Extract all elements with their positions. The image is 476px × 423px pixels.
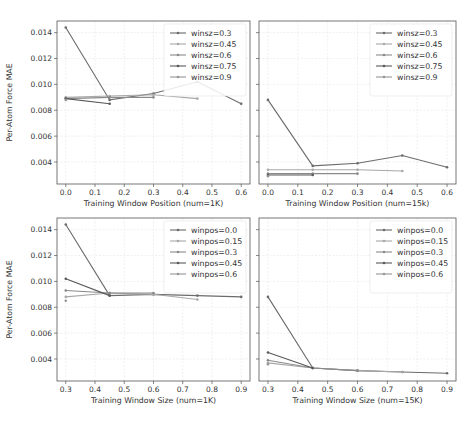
x-tick-label: 0.3	[60, 385, 72, 394]
data-point	[152, 96, 155, 99]
x-tick-label: 0.7	[381, 385, 393, 394]
x-tick-label: 0.0	[262, 188, 274, 197]
legend-label: winpos=0.45	[191, 259, 242, 268]
data-point	[267, 99, 270, 102]
y-tick-label: 0.012	[31, 54, 53, 63]
data-point	[64, 278, 67, 281]
series-line	[64, 99, 67, 102]
x-tick-label: 0.3	[352, 188, 364, 197]
legend-label: winsz=0.45	[191, 40, 237, 49]
data-point	[64, 289, 67, 292]
legend-label: winsz=0.9	[191, 73, 232, 82]
series-line	[267, 359, 359, 372]
x-tick-label: 0.5	[206, 188, 218, 197]
x-tick-label: 0.6	[441, 188, 453, 197]
data-point	[240, 102, 243, 105]
data-point	[401, 371, 404, 374]
data-point	[108, 102, 111, 105]
data-point	[311, 367, 314, 370]
legend-label: winpos=0.3	[191, 248, 237, 257]
data-point	[108, 96, 111, 99]
figure: 0.00.10.20.30.40.50.60.0040.0060.0080.01…	[0, 0, 476, 423]
y-tick-label: 0.006	[31, 329, 53, 338]
legend-label: winpos=0.15	[397, 237, 448, 246]
data-point	[64, 296, 67, 299]
x-tick-label: 0.1	[292, 188, 304, 197]
series-line	[267, 168, 404, 172]
data-point	[64, 299, 67, 302]
legend-label: winpos=0.15	[191, 237, 242, 246]
data-point	[108, 99, 111, 102]
data-point	[196, 294, 199, 297]
x-tick-label: 0.5	[322, 385, 334, 394]
y-tick-label: 0.008	[31, 303, 53, 312]
data-point	[267, 363, 270, 366]
chart-top-right: 0.00.10.20.30.40.50.6Training Window Pos…	[256, 21, 456, 208]
data-point	[356, 162, 359, 165]
data-point	[311, 174, 314, 177]
legend-label: winpos=0.0	[191, 226, 237, 235]
data-point	[64, 223, 67, 226]
data-point	[267, 168, 270, 171]
data-point	[196, 298, 199, 301]
y-axis-label: Per-Atom Force MAE	[5, 63, 14, 141]
data-point	[64, 26, 67, 29]
legend-label: winsz=0.3	[397, 29, 438, 38]
x-tick-label: 0.9	[235, 385, 247, 394]
data-point	[446, 166, 449, 169]
x-tick-label: 0.4	[89, 385, 101, 394]
data-point	[446, 372, 449, 375]
x-tick-label: 0.4	[292, 385, 304, 394]
x-axis-label: Training Window Position (num=1K)	[83, 199, 223, 208]
legend-label: winsz=0.75	[191, 62, 237, 71]
data-point	[152, 93, 155, 96]
legend: winpos=0.0winpos=0.15winpos=0.3winpos=0.…	[370, 221, 452, 293]
x-tick-label: 0.6	[352, 385, 364, 394]
y-tick-label: 0.010	[31, 277, 53, 286]
legend-label: winsz=0.3	[191, 29, 232, 38]
x-tick-label: 0.9	[441, 385, 453, 394]
data-point	[356, 168, 359, 171]
x-axis-label: Training Window Size (num=1K)	[90, 396, 216, 405]
legend-label: winsz=0.6	[397, 51, 438, 60]
data-point	[267, 359, 270, 362]
x-tick-label: 0.3	[262, 385, 274, 394]
x-tick-label: 0.1	[89, 188, 101, 197]
x-tick-label: 0.4	[177, 188, 189, 197]
legend: winsz=0.3winsz=0.45winsz=0.6winsz=0.75wi…	[370, 24, 452, 96]
legend-label: winpos=0.45	[397, 259, 448, 268]
x-tick-label: 0.3	[148, 188, 160, 197]
legend-label: winpos=0.6	[397, 270, 443, 279]
x-tick-label: 0.5	[411, 188, 423, 197]
series-line	[64, 289, 154, 294]
y-tick-label: 0.010	[31, 80, 53, 89]
legend-label: winsz=0.6	[191, 51, 232, 60]
x-tick-label: 0.4	[381, 188, 393, 197]
x-tick-label: 0.8	[411, 385, 423, 394]
data-point	[401, 154, 404, 157]
data-point	[108, 292, 111, 295]
y-tick-label: 0.006	[31, 132, 53, 141]
x-axis-label: Training Window Position (num=15k)	[285, 199, 430, 208]
x-tick-label: 0.7	[177, 385, 189, 394]
y-axis-label: Per-Atom Force MAE	[5, 260, 14, 338]
x-tick-label: 0.2	[118, 188, 130, 197]
chart-bottom-right: 0.30.40.50.60.70.80.9Training Window Siz…	[256, 218, 456, 405]
data-point	[267, 296, 270, 299]
data-point	[240, 296, 243, 299]
x-tick-label: 0.0	[60, 188, 72, 197]
chart-bottom-left: 0.30.40.50.60.70.80.90.0040.0060.0080.01…	[5, 218, 250, 405]
data-point	[152, 292, 155, 295]
y-tick-label: 0.012	[31, 251, 53, 260]
y-tick-label: 0.014	[31, 28, 53, 37]
data-point	[108, 294, 111, 297]
legend-label: winpos=0.3	[397, 248, 443, 257]
data-point	[356, 369, 359, 372]
data-point	[356, 172, 359, 175]
x-tick-label: 0.5	[118, 385, 130, 394]
legend-label: winpos=0.0	[397, 226, 443, 235]
y-tick-label: 0.004	[31, 158, 53, 167]
data-point	[196, 97, 199, 100]
data-point	[311, 168, 314, 171]
series-line	[267, 175, 270, 178]
